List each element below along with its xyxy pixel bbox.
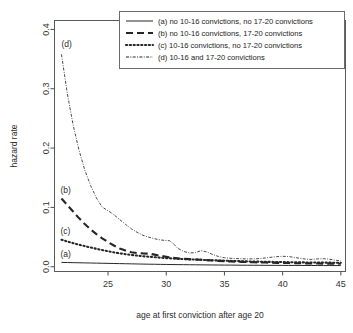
inplot-label-d: (d) — [61, 39, 72, 49]
y-tick-label: 0.0 — [42, 260, 52, 273]
y-axis-title: hazard rate — [9, 124, 19, 167]
chart-figure: 0.00.10.20.30.4 hazard rate 2530354045 a… — [0, 0, 353, 333]
x-axis-title: age at first conviction after age 20 — [136, 310, 264, 320]
legend-label-c: (c) 10-16 convictions, no 17-20 convicti… — [158, 41, 302, 50]
inplot-label-c: (c) — [60, 226, 70, 236]
y-tick-label: 0.4 — [42, 23, 52, 36]
x-tick-label: 45 — [336, 279, 346, 289]
x-tick-label: 40 — [278, 279, 288, 289]
y-tick-label: 0.2 — [42, 142, 52, 155]
legend-label-d: (d) 10-16 and 17-20 convictions — [158, 53, 265, 62]
x-tick-label: 30 — [161, 279, 171, 289]
x-tick-label: 35 — [219, 279, 229, 289]
hazard-rate-line-chart: 0.00.10.20.30.4 hazard rate 2530354045 a… — [0, 0, 353, 333]
y-tick-label: 0.1 — [42, 201, 52, 214]
inplot-label-a: (a) — [60, 249, 71, 259]
inplot-label-b: (b) — [60, 185, 71, 195]
y-tick-label: 0.3 — [42, 82, 52, 95]
legend-label-b: (b) no 10-16 convictions, 17-20 convicti… — [158, 29, 303, 38]
legend[interactable]: (a) no 10-16 convictions, no 17-20 convi… — [120, 12, 345, 69]
legend-label-a: (a) no 10-16 convictions, no 17-20 convi… — [158, 17, 313, 26]
x-tick-label: 25 — [103, 279, 113, 289]
